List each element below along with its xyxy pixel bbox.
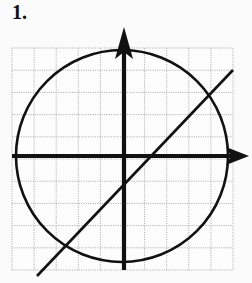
graph-svg (0, 0, 252, 283)
graph-figure (0, 0, 252, 283)
worksheet-problem-figure: 1. (0, 0, 252, 283)
